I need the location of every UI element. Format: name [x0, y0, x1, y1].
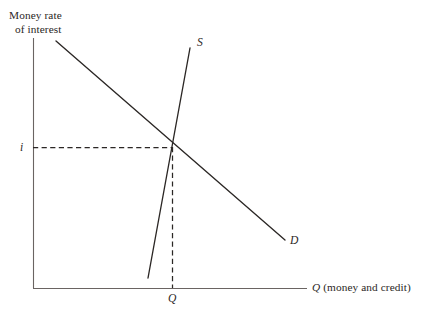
- y-axis-label-line2: of interest: [9, 23, 62, 37]
- x-axis-label-description: (money and credit): [320, 281, 411, 293]
- supply-demand-figure: Money rate of interest Q (money and cred…: [0, 0, 427, 327]
- demand-curve-label: D: [290, 234, 298, 248]
- equilibrium-interest-rate-label: i: [20, 141, 23, 155]
- supply-curve: [148, 48, 190, 278]
- y-axis-label: Money rate of interest: [9, 9, 62, 37]
- equilibrium-quantity-label: Q: [168, 292, 176, 306]
- plot-canvas: [0, 0, 427, 327]
- supply-curve-label: S: [197, 36, 203, 50]
- y-axis-label-line1: Money rate: [9, 9, 62, 21]
- demand-curve: [56, 41, 285, 240]
- x-axis-label: Q (money and credit): [312, 281, 411, 295]
